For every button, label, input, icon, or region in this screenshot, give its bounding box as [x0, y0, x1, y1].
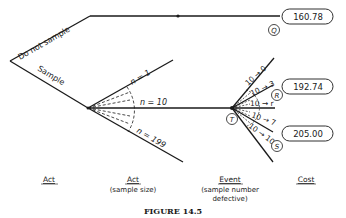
decision-node [87, 107, 90, 110]
figure-caption: FIGURE 14.5 [144, 206, 202, 216]
column-event-subtitle2: defective) [212, 195, 248, 203]
node-r-label: R [275, 92, 280, 100]
column-act-title: Act [43, 175, 55, 184]
cost-value-s: 205.00 [293, 129, 323, 139]
do-not-sample-label: Do not sample [17, 25, 72, 62]
cost-value-r: 192.74 [293, 82, 323, 92]
n10-label: n = 10 [140, 98, 167, 107]
chance-node-t [230, 106, 234, 110]
n199-branch [88, 108, 183, 162]
n1-label: n = 1 [129, 68, 153, 87]
event-label-r: 10 → r [250, 99, 275, 108]
sample-label: Sample [36, 64, 66, 87]
decision-tree-diagram: Do not sample Sample n = 1 n = 10 n = 19… [0, 0, 346, 218]
node-s-label: S [275, 143, 280, 151]
sample-size-fan [88, 87, 134, 132]
column-sample-size-title: Act [127, 175, 139, 184]
chance-dot [176, 14, 179, 17]
column-event-subtitle: (sample number [201, 186, 259, 194]
cost-value-q: 160.78 [293, 12, 323, 22]
column-cost-title: Cost [298, 175, 315, 184]
column-event-title: Event [219, 175, 241, 184]
node-q-label: Q [271, 27, 277, 35]
node-t-label: T [230, 116, 235, 124]
column-sample-size-subtitle: (sample size) [110, 186, 157, 194]
